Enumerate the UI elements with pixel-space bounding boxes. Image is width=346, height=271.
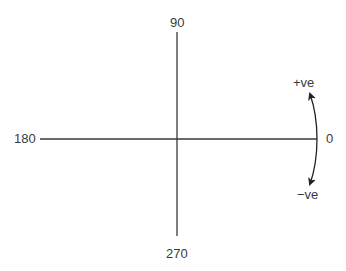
label-positive: +ve	[293, 76, 314, 90]
rotation-arc-positive	[310, 94, 317, 139]
label-0: 0	[326, 132, 333, 146]
rotation-arc-negative	[310, 139, 317, 184]
label-270: 270	[166, 247, 188, 261]
label-90: 90	[170, 16, 184, 30]
label-negative: −ve	[297, 188, 318, 202]
label-180: 180	[14, 132, 36, 146]
axes-canvas	[0, 0, 346, 271]
